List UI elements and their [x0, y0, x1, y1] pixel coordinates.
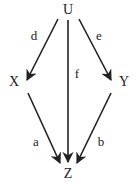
diagram-canvas [0, 0, 136, 189]
edge-u-y [79, 19, 111, 80]
edge-label-d: d [31, 29, 38, 42]
edge-x-z [28, 93, 60, 163]
node-u: U [63, 3, 73, 17]
edge-label-e: e [96, 29, 102, 42]
node-x: X [9, 75, 19, 89]
edge-label-b: b [98, 135, 105, 148]
edge-label-f: f [75, 67, 79, 80]
edge-label-a: a [33, 135, 39, 148]
edge-y-z [77, 93, 111, 163]
node-y: Y [119, 75, 129, 89]
node-z: Z [64, 167, 73, 181]
